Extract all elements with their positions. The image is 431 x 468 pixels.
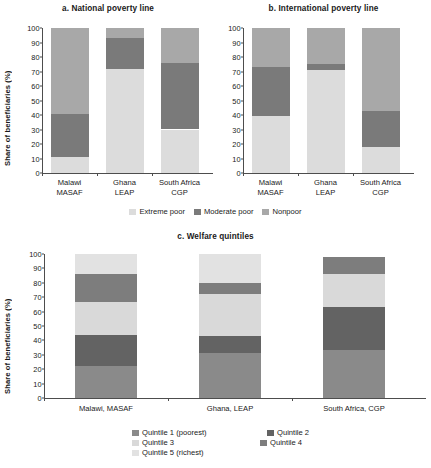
- stacked-bar[interactable]: [252, 28, 290, 173]
- bar-segment[interactable]: [199, 294, 261, 336]
- bar-segment[interactable]: [323, 257, 385, 274]
- bar-segment[interactable]: [75, 302, 137, 335]
- bar-segment[interactable]: [161, 63, 199, 130]
- bar-segment[interactable]: [161, 28, 199, 63]
- x-axis-tick-mark: [42, 173, 43, 176]
- legend-item[interactable]: Nonpoor: [262, 207, 301, 217]
- bar-segment[interactable]: [362, 147, 400, 173]
- y-axis-tick-mark: [42, 282, 45, 283]
- bar-segment[interactable]: [307, 64, 345, 70]
- y-axis-tick-mark: [241, 129, 244, 130]
- x-axis-category-line: Ghana: [314, 178, 337, 188]
- bar-segment[interactable]: [199, 336, 261, 353]
- stacked-bar[interactable]: [106, 28, 144, 173]
- bar-segment[interactable]: [252, 67, 290, 116]
- y-axis-tick-mark: [241, 86, 244, 87]
- panel-national-poverty-line: a. National poverty line Share of benefi…: [0, 4, 216, 204]
- x-axis-tick-mark: [353, 173, 354, 176]
- bar-segment[interactable]: [199, 283, 261, 295]
- x-axis-tick-mark: [243, 173, 244, 176]
- bar-segment[interactable]: [106, 69, 144, 173]
- legend-item[interactable]: Quintile 3: [132, 438, 260, 448]
- x-axis-category-line: Malawi: [257, 178, 283, 188]
- y-axis-tick-mark: [241, 115, 244, 116]
- quintile-legend: Quintile 1 (poorest)Quintile 2Quintile 3…: [132, 428, 431, 458]
- x-axis-category-line: LEAP: [314, 188, 337, 198]
- x-axis-tick-mark: [168, 398, 169, 401]
- y-axis-tick-mark: [241, 42, 244, 43]
- legend-swatch-icon: [132, 430, 139, 437]
- legend-label: Extreme poor: [139, 207, 185, 217]
- panel-a-ylabel: Share of beneficiaries (%): [3, 26, 12, 166]
- panel-c-ylabel: Share of beneficiaries (%): [3, 254, 12, 394]
- bar-segment[interactable]: [252, 28, 290, 67]
- y-axis-tick-mark: [40, 86, 43, 87]
- y-axis-tick-mark: [40, 28, 43, 29]
- bar-segment[interactable]: [199, 353, 261, 398]
- bar-segment[interactable]: [106, 28, 144, 38]
- bar-segment[interactable]: [307, 28, 345, 64]
- bar-segment[interactable]: [362, 111, 400, 147]
- panel-c-title: c. Welfare quintiles: [0, 232, 431, 241]
- stacked-bar[interactable]: [307, 28, 345, 173]
- poverty-legend: Extreme poorModerate poorNonpoor: [0, 207, 431, 217]
- bar-segment[interactable]: [51, 157, 89, 173]
- legend-label: Quintile 4: [270, 438, 302, 448]
- x-axis-line: [42, 173, 213, 174]
- bar-segment[interactable]: [51, 114, 89, 158]
- y-axis-tick-mark: [40, 42, 43, 43]
- x-axis-category-label: South AfricaCGP: [360, 178, 401, 197]
- y-axis-tick-mark: [42, 297, 45, 298]
- bar-segment[interactable]: [323, 350, 385, 398]
- x-axis-category-label: Malawi, MASAF: [79, 404, 133, 414]
- legend-swatch-icon: [132, 440, 139, 447]
- legend-item[interactable]: Extreme poor: [129, 207, 185, 217]
- x-axis-line: [44, 398, 426, 399]
- legend-item[interactable]: Quintile 4: [260, 438, 395, 448]
- stacked-bar[interactable]: [75, 254, 137, 398]
- bar-segment[interactable]: [323, 274, 385, 307]
- bar-segment[interactable]: [161, 130, 199, 174]
- bar-segment[interactable]: [307, 70, 345, 173]
- bar-segment[interactable]: [75, 274, 137, 301]
- y-axis-tick-mark: [40, 100, 43, 101]
- y-axis-tick-mark: [42, 340, 45, 341]
- bar-segment[interactable]: [75, 254, 137, 274]
- legend-item[interactable]: Moderate poor: [194, 207, 253, 217]
- bar-segment[interactable]: [106, 38, 144, 68]
- x-axis-category-line: MASAF: [56, 188, 82, 198]
- panel-b-title: b. International poverty line: [216, 4, 431, 13]
- bar-segment[interactable]: [75, 335, 137, 367]
- x-axis-category-label: MalawiMASAF: [56, 178, 82, 197]
- x-axis-category-line: Malawi: [56, 178, 82, 188]
- panel-welfare-quintiles: c. Welfare quintiles Share of beneficiar…: [0, 232, 431, 432]
- bar-segment[interactable]: [362, 28, 400, 111]
- stacked-bar[interactable]: [323, 254, 385, 398]
- legend-swatch-icon: [132, 450, 139, 457]
- x-axis-tick-mark: [152, 173, 153, 176]
- bar-segment[interactable]: [51, 28, 89, 114]
- y-axis-tick-mark: [241, 100, 244, 101]
- stacked-bar[interactable]: [161, 28, 199, 173]
- panel-international-poverty-line: b. International poverty line 0102030405…: [216, 4, 431, 204]
- bar-segment[interactable]: [323, 307, 385, 350]
- stacked-bar[interactable]: [51, 28, 89, 173]
- x-axis-category-line: South Africa: [159, 178, 200, 188]
- bar-segment[interactable]: [252, 116, 290, 173]
- y-axis-tick-mark: [40, 115, 43, 116]
- bar-segment[interactable]: [199, 254, 261, 283]
- stacked-bar[interactable]: [199, 254, 261, 398]
- legend-item[interactable]: Quintile 5 (richest): [132, 448, 260, 458]
- y-axis-tick-mark: [40, 158, 43, 159]
- panel-b-plot-area: 0102030405060708090100MalawiMASAFGhanaLE…: [243, 28, 408, 173]
- y-axis-tick-mark: [241, 28, 244, 29]
- y-axis-tick-mark: [40, 71, 43, 72]
- bar-segment[interactable]: [75, 366, 137, 398]
- stacked-bar[interactable]: [362, 28, 400, 173]
- y-axis-tick-mark: [42, 311, 45, 312]
- legend-label: Moderate poor: [204, 207, 253, 217]
- x-axis-category-line: Ghana, LEAP: [207, 404, 253, 414]
- legend-item[interactable]: Quintile 1 (poorest): [132, 428, 267, 438]
- x-axis-category-line: LEAP: [113, 188, 136, 198]
- legend-item[interactable]: Quintile 2: [267, 428, 395, 438]
